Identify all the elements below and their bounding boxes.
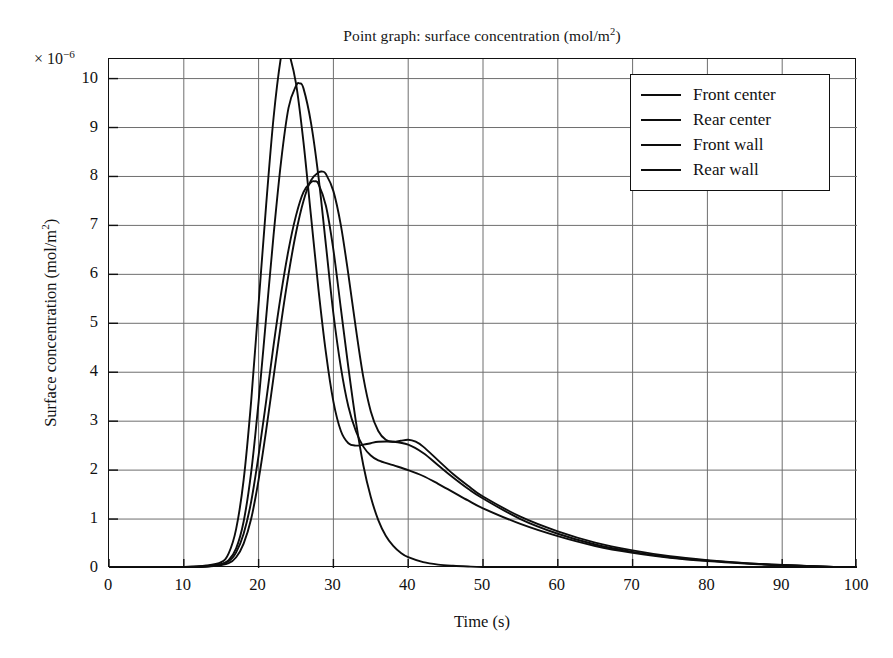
- chart-figure: Point graph: surface concentration (mol/…: [0, 0, 893, 658]
- y-axis-multiplier-base: × 10: [34, 50, 63, 67]
- y-axis-title-main: Surface concentration (mol/m: [41, 230, 60, 427]
- x-tick-label: 90: [751, 577, 811, 594]
- y-axis-title-superscript: 2: [39, 224, 51, 230]
- x-tick-label: 10: [153, 577, 213, 594]
- y-tick-label: 0: [52, 559, 98, 576]
- legend-label: Front center: [693, 86, 776, 103]
- legend-item-front-center[interactable]: Front center: [641, 82, 819, 107]
- x-tick-label: 30: [302, 577, 362, 594]
- legend-line-swatch: [641, 169, 681, 171]
- chart-title-main: Point graph: surface concentration (mol/…: [343, 27, 610, 44]
- x-tick-label: 40: [377, 577, 437, 594]
- chart-title: Point graph: surface concentration (mol/…: [108, 26, 856, 45]
- x-tick-label: 70: [602, 577, 662, 594]
- legend-line-swatch: [641, 119, 681, 121]
- legend-label: Front wall: [693, 136, 763, 153]
- legend-line-swatch: [641, 94, 681, 96]
- y-axis-multiplier: × 10−6: [34, 48, 75, 68]
- y-axis-title: Surface concentration (mol/m2): [39, 93, 61, 553]
- x-tick-label: 50: [452, 577, 512, 594]
- y-axis-multiplier-exponent: −6: [63, 48, 75, 60]
- x-tick-label: 60: [527, 577, 587, 594]
- legend-item-rear-center[interactable]: Rear center: [641, 107, 819, 132]
- legend-label: Rear center: [693, 111, 771, 128]
- x-tick-label: 0: [78, 577, 138, 594]
- legend-item-front-wall[interactable]: Front wall: [641, 132, 819, 157]
- x-tick-label: 80: [676, 577, 736, 594]
- x-tick-label: 20: [228, 577, 288, 594]
- x-axis-title: Time (s): [108, 612, 856, 632]
- chart-legend: Front centerRear centerFront wallRear wa…: [630, 74, 830, 191]
- legend-line-swatch: [641, 144, 681, 146]
- legend-label: Rear wall: [693, 161, 759, 178]
- y-axis-title-tail: ): [41, 219, 60, 225]
- chart-title-tail: ): [615, 27, 620, 44]
- legend-item-rear-wall[interactable]: Rear wall: [641, 157, 819, 182]
- x-tick-label: 100: [826, 577, 886, 594]
- y-tick-label: 10: [52, 70, 98, 87]
